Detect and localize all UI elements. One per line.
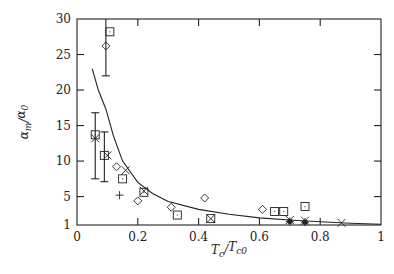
x-tick-label: 0.2 — [128, 230, 147, 244]
plot-border — [77, 19, 381, 225]
square-dot — [304, 206, 305, 207]
y-tick-label: 5 — [63, 190, 71, 204]
diamond-marker — [113, 163, 121, 171]
square-dot — [109, 31, 110, 32]
square-dot — [177, 214, 178, 215]
y-tick-label: 1 — [63, 218, 71, 232]
plot-frame — [77, 19, 381, 225]
plus-marker — [116, 191, 124, 199]
y-axis-label: αm/α0 — [14, 104, 33, 139]
y-tick-label: 30 — [56, 12, 71, 26]
y-tick-label: 15 — [56, 119, 71, 133]
y-tick-label: 25 — [56, 48, 71, 62]
square-dot — [283, 211, 284, 212]
y-tick-label: 20 — [56, 83, 71, 97]
x-tick-label: 1 — [377, 230, 385, 244]
x-marker — [122, 166, 130, 174]
diamond-marker — [134, 197, 142, 205]
axis-ticks — [77, 19, 381, 225]
x-tick-label: 0.4 — [189, 230, 208, 244]
data-markers — [91, 28, 345, 227]
diamond-marker — [258, 205, 266, 213]
fit-curve-path — [92, 69, 381, 225]
diamond-marker — [167, 203, 175, 211]
y-tick-label: 10 — [56, 154, 71, 168]
x-marker — [207, 215, 215, 223]
square-dot — [95, 134, 96, 135]
x-tick-label: 0.8 — [311, 230, 330, 244]
fit-curve — [92, 69, 381, 225]
x-tick-label: 0 — [73, 230, 81, 244]
chart: 00.20.40.60.81151015202530 Tc/Tc0 αm/α0 — [0, 0, 394, 274]
tick-labels: 00.20.40.60.81151015202530 — [56, 12, 385, 244]
filled-marker — [302, 220, 307, 225]
x-axis-label: Tc/Tc0 — [211, 240, 247, 259]
diamond-marker — [201, 194, 209, 202]
square-dot — [274, 211, 275, 212]
square-dot — [122, 178, 123, 179]
x-tick-label: 0.6 — [250, 230, 269, 244]
square-dot — [104, 155, 105, 156]
filled-marker — [287, 219, 292, 224]
